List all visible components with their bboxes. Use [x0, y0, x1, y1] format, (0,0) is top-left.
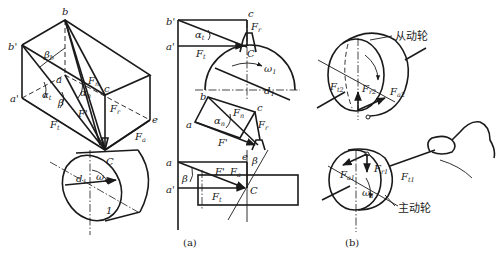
label-a: a [186, 119, 192, 130]
fa2-arrow [358, 98, 385, 110]
label-alpha-n: αn [214, 115, 225, 128]
label-a-prime: a' [10, 93, 19, 104]
panel-b-driver-gear: 主动轮 Fa1 Fr1 Ft1 ω1 [322, 149, 435, 232]
label-a-prime: a' [166, 184, 175, 195]
label-fr: Fr [250, 21, 262, 34]
label-C: C [250, 185, 258, 196]
label-beta: β [181, 173, 188, 184]
label-a: a [166, 157, 172, 168]
angle-arc-beta [190, 168, 193, 182]
caption-a: (a) [183, 237, 197, 248]
label-d1: d1 [264, 85, 275, 98]
wrist-line [440, 160, 472, 178]
driven-gear-label: 从动轮 [395, 29, 428, 43]
label-alpha-t: αt [195, 29, 205, 42]
helical-gear-force-diagram: b b' a a' c e C βb αt β αn Fn Fr F' Ft F… [0, 0, 496, 260]
label-C: C [247, 48, 255, 59]
shaft [322, 186, 350, 200]
panel-a-views: b' c a' αt Fr Ft C ω1 d1 b a c αn Fn F' … [166, 8, 300, 230]
hidden-arc [345, 44, 352, 108]
label-beta: β [57, 97, 64, 108]
helix-line [228, 150, 268, 220]
panel-a-isometric: b b' a a' c e C βb αt β αn Fn Fr F' Ft F… [8, 6, 158, 167]
hand-illustration [428, 122, 495, 178]
label-b-prime: b' [166, 16, 175, 27]
driver-gear-label: 主动轮 [398, 201, 431, 215]
label-a: a [56, 74, 62, 85]
label-ft: Ft [211, 191, 222, 204]
label-ft: Ft [195, 48, 206, 61]
gear-face [51, 145, 133, 232]
label-fr1: Fr1 [373, 163, 388, 176]
label-b: b [200, 91, 206, 102]
caption-b: (b) [345, 237, 359, 248]
label-fprime: F' [77, 108, 88, 119]
label-fn: Fn [232, 107, 244, 120]
shaft [405, 48, 426, 60]
label-fa2: Fa2 [389, 86, 405, 99]
label-fr: Fr [109, 103, 121, 116]
label-fprime: F' [214, 166, 225, 177]
label-gear-1: 1 [106, 205, 112, 216]
shaft [390, 150, 435, 166]
label-c: c [248, 8, 254, 19]
leader-line [370, 36, 392, 40]
label-fa1: Fa1 [339, 169, 355, 182]
label-fprime: F' [217, 137, 228, 148]
label-a-prime: a' [166, 41, 175, 52]
panel-b-driven-gear: 从动轮 Ft2 Fr2 Fa2 [317, 29, 428, 120]
label-fa: Fa [229, 166, 241, 179]
cylinder-back [138, 150, 149, 212]
label-fa: Fa [134, 131, 146, 144]
label-c: c [257, 102, 263, 113]
b-prime-to-C [178, 20, 247, 47]
label-omega1: ω1 [264, 63, 276, 76]
label-fr2: Fr2 [361, 83, 376, 96]
d1-line [215, 68, 290, 100]
label-b: b [62, 6, 68, 17]
hand-outline [428, 122, 495, 158]
label-b-prime: b' [8, 41, 17, 52]
fa1-arrow [343, 154, 367, 165]
label-omega1: ω1 [362, 187, 374, 200]
diameter-arrow [65, 180, 116, 185]
label-alpha-t: αt [42, 89, 52, 102]
label-ft1: Ft1 [400, 171, 415, 184]
thumb [432, 140, 455, 154]
label-c: c [104, 83, 110, 94]
leader-line [385, 195, 395, 206]
label-beta: β [251, 155, 258, 166]
rotation-arrow [365, 55, 378, 80]
label-alpha-n: αn [80, 87, 91, 100]
cylinder-body [343, 33, 408, 116]
contact-point [366, 115, 370, 119]
fa-line [105, 120, 150, 150]
gear-1-cylinder: d1 ω1 1 [50, 145, 149, 235]
cylinder-edge [76, 150, 138, 153]
normal-plane-rect [195, 97, 255, 138]
gear-face [328, 39, 384, 111]
box-top-face [22, 20, 150, 95]
label-e: e [152, 114, 158, 125]
